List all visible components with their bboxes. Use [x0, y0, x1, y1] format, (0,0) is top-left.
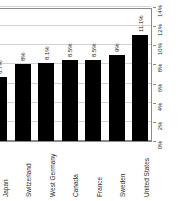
- category-axis: Great BritainJapanSwitzerlandWest German…: [0, 144, 152, 201]
- value-axis-tick-label: 2%: [157, 122, 163, 131]
- bar-value-label: 8.1%: [44, 47, 50, 61]
- tick-mark: [153, 45, 156, 46]
- tick-mark: [153, 103, 156, 104]
- bar[interactable]: [85, 60, 101, 141]
- bar-value-label: 8.5%: [67, 43, 73, 57]
- bar-value-label: 6.7%: [0, 60, 3, 74]
- bar-group: 8.5%: [82, 9, 106, 141]
- value-axis-tick-label: 14%: [157, 5, 163, 17]
- bar[interactable]: [62, 60, 78, 141]
- value-axis: 0%2%4%6%8%10%12%14%: [153, 8, 179, 142]
- value-axis-tick-label: 0%: [157, 141, 163, 150]
- category-axis-label: United States: [143, 158, 150, 197]
- value-axis-tick-label: 6%: [157, 83, 163, 92]
- bar[interactable]: [109, 55, 125, 141]
- bar-group: 11.1%: [129, 9, 153, 141]
- tick-mark: [153, 84, 156, 85]
- category-axis-label: Japan: [2, 179, 9, 197]
- bars-layer: 6.2%6.7%8%8.1%8.5%8.5%9%11.1%: [0, 9, 151, 141]
- bar-value-label: 8.5%: [91, 43, 97, 57]
- value-axis-tick-label: 8%: [157, 64, 163, 73]
- gridline: [0, 6, 151, 7]
- tick-mark: [153, 26, 156, 27]
- category-axis-label: Sweden: [119, 174, 126, 198]
- bar[interactable]: [15, 64, 31, 141]
- category-axis-label: Canada: [72, 174, 79, 197]
- bar-value-label: 8%: [20, 53, 26, 62]
- tick-mark: [153, 7, 156, 8]
- bar[interactable]: [0, 77, 7, 141]
- bar-group: 9%: [105, 9, 129, 141]
- bar[interactable]: [38, 63, 54, 141]
- category-axis-label: West Germany: [49, 154, 56, 197]
- bar-group: 8.5%: [58, 9, 82, 141]
- bar-value-label: 11.1%: [138, 15, 144, 32]
- tick-mark: [153, 122, 156, 123]
- category-axis-label: Switzerland: [25, 163, 32, 197]
- bar-chart: 6.2%6.7%8%8.1%8.5%8.5%9%11.1% 0%2%4%6%8%…: [0, 0, 179, 201]
- bar[interactable]: [132, 35, 148, 141]
- tick-mark: [153, 141, 156, 142]
- category-axis-label: France: [96, 177, 103, 197]
- bar-group: 8.1%: [35, 9, 59, 141]
- value-axis-tick-label: 4%: [157, 102, 163, 111]
- bar-group: 8%: [11, 9, 35, 141]
- bar-value-label: 9%: [114, 43, 120, 52]
- value-axis-tick-label: 10%: [157, 43, 163, 55]
- tick-mark: [153, 64, 156, 65]
- bar-group: 6.7%: [0, 9, 11, 141]
- value-axis-tick-label: 12%: [157, 24, 163, 36]
- plot-area: 6.2%6.7%8%8.1%8.5%8.5%9%11.1%: [0, 8, 152, 142]
